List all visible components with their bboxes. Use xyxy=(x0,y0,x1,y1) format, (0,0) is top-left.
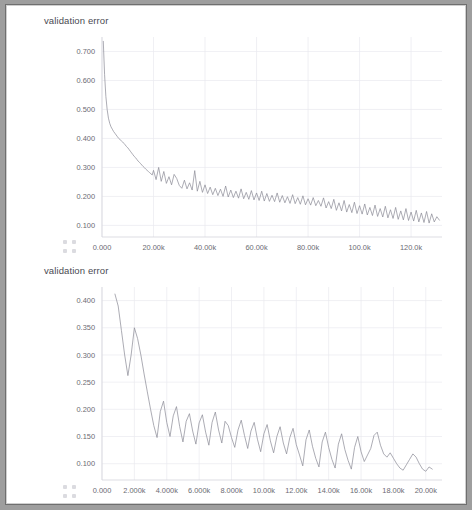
x-tick-label: 100.0k xyxy=(348,243,370,252)
chart-bottom: validation error 0.1000.1500.2000.2500.3… xyxy=(6,259,466,504)
x-tick-label: 80.00k xyxy=(297,243,319,252)
x-tick-label: 16.00k xyxy=(350,486,372,495)
chart-top: validation error 0.1000.2000.3000.4000.5… xyxy=(6,9,466,259)
scanned-page: validation error 0.1000.2000.3000.4000.5… xyxy=(5,4,467,505)
y-tick-label: 0.200 xyxy=(77,405,96,414)
x-tick-label: 12.00k xyxy=(285,486,307,495)
chart-svg-bottom: 0.1000.1500.2000.2500.3000.3500.4000.000… xyxy=(6,275,466,504)
chart-svg-top: 0.1000.2000.3000.4000.5000.6000.7000.000… xyxy=(6,27,466,259)
y-tick-label: 0.150 xyxy=(77,432,96,441)
x-tick-label: 8.000k xyxy=(220,486,242,495)
x-tick-label: 2.000k xyxy=(123,486,145,495)
plot-area-top: 0.1000.2000.3000.4000.5000.6000.7000.000… xyxy=(6,27,466,259)
x-tick-label: 14.00k xyxy=(318,486,340,495)
chart-title-top: validation error xyxy=(44,15,108,26)
y-tick-label: 0.200 xyxy=(77,192,96,201)
x-tick-label: 0.000 xyxy=(93,486,112,495)
x-tick-label: 20.00k xyxy=(142,243,164,252)
resize-grip-icon-bottom[interactable] xyxy=(63,485,76,498)
y-tick-label: 0.300 xyxy=(77,351,96,360)
x-tick-label: 6.000k xyxy=(188,486,210,495)
series-line xyxy=(115,294,432,471)
x-tick-label: 120.0k xyxy=(400,243,422,252)
x-tick-label: 40.00k xyxy=(194,243,216,252)
y-tick-label: 0.700 xyxy=(77,47,96,56)
x-tick-label: 20.00k xyxy=(415,486,437,495)
y-tick-label: 0.400 xyxy=(77,296,96,305)
y-tick-label: 0.250 xyxy=(77,378,96,387)
y-tick-label: 0.600 xyxy=(77,76,96,85)
x-tick-label: 4.000k xyxy=(156,486,178,495)
plot-area-bottom: 0.1000.1500.2000.2500.3000.3500.4000.000… xyxy=(6,275,466,504)
x-tick-label: 18.00k xyxy=(382,486,404,495)
y-tick-label: 0.100 xyxy=(77,221,96,230)
y-tick-label: 0.300 xyxy=(77,163,96,172)
x-tick-label: 0.000 xyxy=(93,243,112,252)
x-tick-label: 10.00k xyxy=(253,486,275,495)
y-tick-label: 0.500 xyxy=(77,105,96,114)
resize-grip-icon-top[interactable] xyxy=(63,240,76,253)
y-tick-label: 0.400 xyxy=(77,134,96,143)
y-tick-label: 0.100 xyxy=(77,459,96,468)
x-tick-label: 60.00k xyxy=(245,243,267,252)
y-tick-label: 0.350 xyxy=(77,323,96,332)
